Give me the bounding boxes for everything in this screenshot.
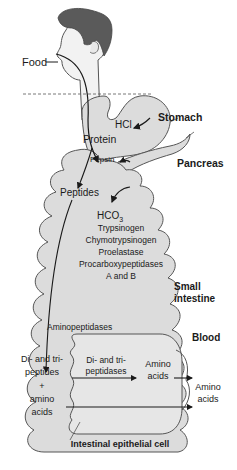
label-peptides: Peptides xyxy=(60,187,99,198)
label-cell-enzyme-line2: peptidases xyxy=(85,366,126,376)
label-blood-amino-line1: Amino xyxy=(195,382,221,392)
label-trypsinogen: Trypsinogen xyxy=(98,223,145,233)
label-stomach: Stomach xyxy=(158,111,202,123)
label-blood-amino-line2: acids xyxy=(197,394,219,404)
label-cell-amino-line1: Amino xyxy=(145,359,171,369)
label-lumen-line4: amino xyxy=(30,394,55,404)
protein-digestion-diagram: Food HCl Stomach Protein Pepsin Pancreas… xyxy=(0,0,237,470)
label-lumen-line1: Di- and tri- xyxy=(21,354,63,364)
label-hcl: HCl xyxy=(115,119,132,130)
label-protein: Protein xyxy=(83,133,116,145)
label-epithelial-cell: Intestinal epithelial cell xyxy=(71,439,170,449)
label-small: Small xyxy=(174,281,201,292)
label-lumen-line3: + xyxy=(39,381,44,391)
label-pepsin: Pepsin xyxy=(90,155,114,164)
epithelial-cell-shape xyxy=(69,334,182,434)
label-blood: Blood xyxy=(192,332,220,343)
label-cell-amino-line2: acids xyxy=(147,371,169,381)
label-lumen-line5: acids xyxy=(31,407,53,417)
label-lumen-line2: peptides xyxy=(25,367,60,377)
label-intestine: intestine xyxy=(174,293,216,304)
label-procarboxypeptidases: Procarboxypeptidases xyxy=(79,259,163,269)
label-a-and-b: A and B xyxy=(106,271,136,281)
label-proelastase: Proelastase xyxy=(99,247,144,257)
label-pancreas: Pancreas xyxy=(177,157,224,169)
label-food: Food xyxy=(22,56,47,68)
label-chymotrypsinogen: Chymotrypsinogen xyxy=(86,235,157,245)
label-aminopeptidases: Aminopeptidases xyxy=(47,322,112,332)
label-cell-enzyme-line1: Di- and tri- xyxy=(86,355,126,365)
